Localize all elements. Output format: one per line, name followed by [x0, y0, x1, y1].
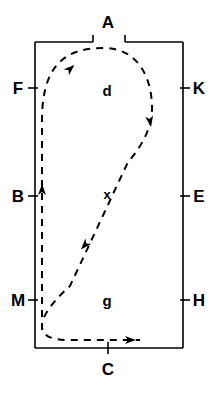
boundary-label-E: E — [193, 188, 204, 205]
arrow-upper-loop — [64, 62, 78, 75]
boundary-label-C: C — [102, 361, 114, 378]
arrow-diagonal — [78, 239, 91, 253]
boundary-label-F: F — [13, 80, 23, 97]
boundary-ticks — [28, 88, 190, 354]
region-label-g: g — [102, 293, 111, 308]
boundary-label-A: A — [102, 14, 114, 31]
dashed-flow-curve — [42, 48, 152, 340]
region-label-d: d — [102, 83, 111, 98]
boundary-label-K: K — [193, 80, 205, 97]
arrow-loop-descend — [145, 115, 155, 127]
boundary-label-M: M — [11, 292, 25, 309]
point-marker-x: x — [103, 188, 110, 201]
diagram-canvas: A F B M K E H C d g x — [0, 0, 220, 393]
boundary-label-H: H — [193, 292, 205, 309]
dashed-flow-path — [42, 48, 152, 340]
boundary-label-B: B — [12, 188, 24, 205]
